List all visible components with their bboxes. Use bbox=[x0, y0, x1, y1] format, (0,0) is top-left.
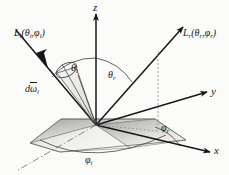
reflected-radiance-phi-sub: r bbox=[210, 32, 213, 39]
phi-r-label: φr bbox=[161, 123, 169, 133]
differential-solid-angle-label: dωi bbox=[25, 84, 39, 94]
phi-r-subscript: r bbox=[167, 127, 170, 134]
phi-i-subscript: i bbox=[91, 159, 93, 166]
axis-label-z: z bbox=[93, 2, 97, 13]
cone-edge-left bbox=[62, 64, 96, 125]
phi-i-symbol: φ bbox=[85, 154, 91, 165]
omega-subscript: i bbox=[37, 88, 39, 95]
incident-ray-arrowhead bbox=[36, 49, 48, 68]
axis-label-x: x bbox=[214, 145, 219, 156]
incident-ray bbox=[16, 30, 96, 125]
incident-radiance-theta-sub: i bbox=[30, 32, 32, 39]
phi-i-label: φi bbox=[85, 155, 92, 165]
incident-radiance-comma: ,φ bbox=[32, 27, 40, 38]
brdf-diagram: z y x Li(θi,φi) Lr(θr,φr) θi θr dωi φi φ… bbox=[0, 0, 229, 175]
reflected-radiance-L-sub: r bbox=[189, 32, 192, 39]
reflected-radiance-L: L bbox=[183, 27, 189, 38]
incident-radiance-label: Li(θi,φi) bbox=[14, 28, 45, 38]
cone-body bbox=[57, 67, 96, 125]
theta-r-label: θr bbox=[108, 70, 116, 80]
incident-radiance-open: (θ bbox=[21, 27, 29, 38]
axis-label-y: y bbox=[211, 86, 216, 97]
phi-r-symbol: φ bbox=[161, 122, 167, 133]
reflected-radiance-close: ) bbox=[213, 27, 216, 38]
reflected-radiance-label: Lr(θr,φr) bbox=[183, 28, 216, 38]
reflected-radiance-comma: ,φ bbox=[202, 27, 210, 38]
incident-radiance-close: ) bbox=[42, 27, 45, 38]
theta-r-subscript: r bbox=[113, 74, 116, 81]
reflected-radiance-theta-sub: r bbox=[199, 32, 202, 39]
theta-i-label: θi bbox=[71, 63, 78, 73]
incident-radiance-L: L bbox=[14, 27, 20, 38]
incident-radiance-phi-sub: i bbox=[40, 32, 42, 39]
omega-symbol: ω bbox=[30, 84, 37, 94]
theta-i-subscript: i bbox=[76, 67, 78, 74]
